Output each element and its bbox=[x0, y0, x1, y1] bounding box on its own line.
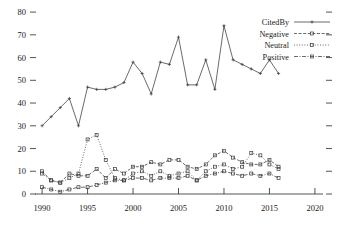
y-axis-label-group: 01020304050607080 bbox=[18, 7, 27, 199]
series-markers-positive bbox=[41, 170, 280, 193]
x-axis-label-group: 1990199520002005201020152020 bbox=[34, 203, 324, 213]
series-markers-citedby bbox=[40, 24, 280, 127]
x-tick-label: 1990 bbox=[34, 203, 51, 213]
series-negative bbox=[41, 149, 280, 184]
y-tick-label: 50 bbox=[18, 75, 27, 85]
legend-label-negative: Negative bbox=[259, 30, 289, 39]
x-tick-label: 2015 bbox=[261, 203, 278, 213]
legend-marker-citedby bbox=[310, 20, 313, 23]
legend-label-citedby: CitedBy bbox=[262, 18, 290, 27]
y-tick-label: 10 bbox=[18, 166, 27, 176]
series-positive bbox=[41, 170, 280, 193]
x-tick-label: 2010 bbox=[215, 203, 232, 213]
legend-label-neutral: Neutral bbox=[264, 41, 289, 50]
x-axis-tick-group bbox=[42, 188, 315, 194]
y-tick-label: 60 bbox=[18, 53, 27, 63]
chart-container: 01020304050607080 1990199520002005201020… bbox=[0, 0, 339, 231]
line-chart: 01020304050607080 1990199520002005201020… bbox=[0, 0, 339, 231]
y-tick-label: 30 bbox=[18, 121, 27, 131]
right-axis-tick-group bbox=[326, 12, 332, 194]
legend-label-positive: Positive bbox=[263, 53, 290, 62]
series-line-citedby bbox=[42, 26, 278, 126]
x-tick-label: 1995 bbox=[79, 203, 96, 213]
x-tick-label: 2005 bbox=[170, 203, 187, 213]
x-tick-label: 2020 bbox=[306, 203, 323, 213]
y-tick-label: 80 bbox=[18, 7, 27, 17]
y-axis-tick-group bbox=[30, 12, 36, 194]
chart-legend: CitedByNegativeNeutralPositive bbox=[259, 18, 330, 62]
y-tick-label: 40 bbox=[18, 98, 27, 108]
series-group bbox=[40, 24, 280, 193]
y-tick-label: 0 bbox=[22, 189, 26, 199]
y-tick-label: 20 bbox=[18, 144, 27, 154]
series-citedby bbox=[40, 24, 280, 127]
series-markers-negative bbox=[41, 149, 280, 184]
x-tick-label: 2000 bbox=[125, 203, 142, 213]
y-tick-label: 70 bbox=[18, 30, 27, 40]
